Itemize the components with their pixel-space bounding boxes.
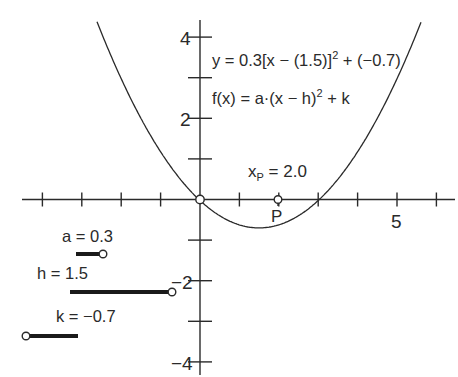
slider-a-label: a = 0.3 <box>62 227 113 245</box>
slider-a-handle[interactable] <box>99 250 107 258</box>
slider-h-label: h = 1.5 <box>37 264 88 282</box>
graph-canvas: 4 2 −2 −4 5 y = 0.3[x − (1.5)]2 + (−0.7)… <box>0 0 458 377</box>
y-tick-label-4: 4 <box>180 28 191 49</box>
origin-point[interactable] <box>196 195 204 203</box>
point-p-value-label: xP = 2.0 <box>248 162 307 183</box>
slider-k-handle[interactable] <box>22 332 30 340</box>
x-tick-label-5: 5 <box>391 211 402 232</box>
point-p-label: P <box>271 207 282 226</box>
slider-h-handle[interactable] <box>168 288 176 296</box>
y-tick-label-2: 2 <box>180 109 191 130</box>
y-tick-label-neg4: −4 <box>171 353 193 374</box>
point-p[interactable] <box>274 196 282 204</box>
equation-general: f(x) = a·(x − h)2 + k <box>212 87 350 107</box>
slider-k-label: k = −0.7 <box>56 307 116 325</box>
equation-instance: y = 0.3[x − (1.5)]2 + (−0.7) <box>212 49 401 69</box>
